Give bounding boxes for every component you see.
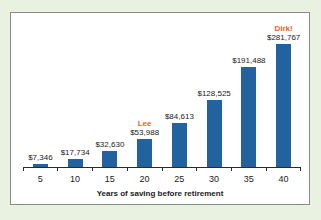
- axis-tick: [232, 167, 267, 172]
- bar-series: $7,346 $17,734 $32,630 Lee $53,988: [23, 19, 301, 168]
- bar-rect[interactable]: [172, 123, 187, 168]
- x-tick-label: 30: [197, 174, 232, 185]
- bar-rect[interactable]: [241, 67, 256, 168]
- axis-tick: [127, 167, 162, 172]
- axis-tick: [162, 167, 197, 172]
- bar-value-label: $281,767: [267, 33, 300, 43]
- bar-value-label: $17,734: [61, 148, 90, 158]
- x-tick-label: 20: [127, 174, 162, 185]
- bar-group: Dirk! $281,767: [266, 19, 301, 168]
- bar-value-label: $53,988: [130, 128, 159, 138]
- plot-area: $7,346 $17,734 $32,630 Lee $53,988: [23, 19, 301, 168]
- x-tick-label: 10: [58, 174, 93, 185]
- bar-value-label: $84,613: [165, 112, 194, 122]
- bar-value-label: $191,488: [232, 56, 265, 66]
- x-axis-title: Years of saving before retirement: [11, 189, 309, 198]
- bar-group: Lee $53,988: [127, 19, 162, 168]
- axis-tick: [266, 167, 301, 172]
- bar-group: $17,734: [58, 19, 93, 168]
- x-tick-label: 35: [232, 174, 267, 185]
- bar-annotation: Lee: [138, 119, 152, 128]
- x-axis-tick-labels: 5 10 15 20 25 30 35 40: [23, 174, 301, 185]
- bar-value-label: $32,630: [95, 140, 124, 150]
- bar-rect[interactable]: [276, 44, 291, 168]
- bar-group: $32,630: [93, 19, 128, 168]
- bar-value-label: $7,346: [28, 153, 52, 163]
- x-tick-label: 40: [266, 174, 301, 185]
- bar-group: $7,346: [23, 19, 58, 168]
- bar-annotation: Dirk!: [275, 24, 293, 33]
- axis-tick: [197, 167, 232, 172]
- x-tick-label: 15: [93, 174, 128, 185]
- chart-panel: $7,346 $17,734 $32,630 Lee $53,988: [10, 12, 310, 205]
- axis-tick: [58, 167, 93, 172]
- bar-rect[interactable]: [102, 151, 117, 168]
- x-tick-label: 5: [23, 174, 58, 185]
- axis-tick: [93, 167, 128, 172]
- bar-rect[interactable]: [207, 100, 222, 168]
- x-tick-label: 25: [162, 174, 197, 185]
- bar-group: $191,488: [232, 19, 267, 168]
- x-axis-ticks: [23, 167, 301, 172]
- axis-tick: [23, 167, 58, 172]
- bar-rect[interactable]: [137, 139, 152, 168]
- bar-value-label: $128,525: [197, 89, 230, 99]
- bar-group: $84,613: [162, 19, 197, 168]
- axis-tick: [300, 167, 301, 171]
- bar-group: $128,525: [197, 19, 232, 168]
- figure: $7,346 $17,734 $32,630 Lee $53,988: [0, 0, 321, 220]
